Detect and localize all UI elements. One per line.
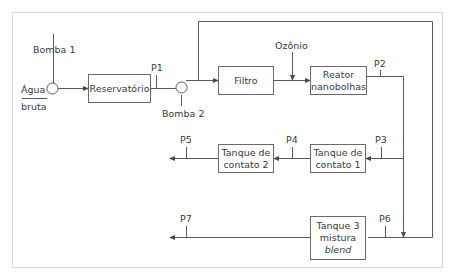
unit-filtro-label: Filtro [234,75,257,87]
unit-filtro: Filtro [218,66,274,95]
unit-reator-line2: nanobolhas [311,81,366,93]
unit-tanque3-line3: blend [325,244,352,256]
unit-reator-nanobolhas: Reator nanobolhas [310,66,367,95]
label-bomba-2: Bomba 2 [162,108,205,119]
label-p4: P4 [286,134,298,145]
label-p7: P7 [180,213,192,224]
label-p6: P6 [379,213,391,224]
unit-tanque1-line2: contato 1 [315,159,360,171]
unit-reator-line1: Reator [323,69,354,81]
unit-tanque1-line1: Tanque de [314,147,363,159]
label-bomba-1: Bomba 1 [33,44,76,55]
label-source-line1: Água [21,84,45,95]
label-p3: P3 [375,134,387,145]
unit-reservatorio: Reservatório [88,74,151,103]
unit-tanque2-line1: Tanque de [222,147,271,159]
unit-reservatorio-label: Reservatório [89,83,149,95]
unit-tanque3-line2: mistura [320,232,356,244]
pump-2-icon [176,82,187,93]
unit-tanque-contato-1: Tanque de contato 1 [310,144,366,173]
label-ozonio: Ozônio [275,40,308,51]
label-p1: P1 [151,62,163,73]
unit-tanque2-line2: contato 2 [223,159,268,171]
label-p5: P5 [180,134,192,145]
unit-tanque-contato-2: Tanque de contato 2 [218,144,274,173]
label-p2: P2 [374,58,386,69]
unit-tanque-3-mistura: Tanque 3 mistura blend [310,216,366,260]
unit-tanque3-line1: Tanque 3 [316,220,359,232]
label-source-line2: bruta [21,101,47,112]
pump-1-icon [47,83,58,94]
